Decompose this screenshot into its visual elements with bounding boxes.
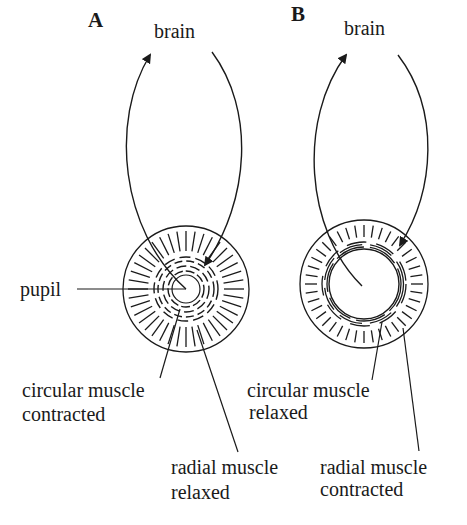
radial-muscle-label-a-line1: radial muscle: [171, 456, 278, 478]
panel-letter-a: A: [88, 8, 103, 33]
circular-muscle-label-b-line1: circular muscle: [247, 379, 370, 401]
radial-muscle-label-b-line1: radial muscle: [320, 456, 427, 478]
circular-muscle-b: [322, 242, 406, 326]
radial-muscle-b: [305, 225, 423, 343]
radial-leader-b: [403, 328, 419, 451]
nerve-from-brain-a: [205, 52, 242, 265]
circular-muscle-label-b-line2: relaxed: [249, 401, 308, 423]
radial-muscle-label-b-line2: contracted: [320, 478, 403, 500]
brain-label-a: brain: [154, 20, 195, 42]
nerve-from-brain-b: [398, 55, 428, 245]
brain-label-b: brain: [344, 17, 385, 39]
pupil-label: pupil: [20, 278, 61, 300]
panel-letter-b: B: [291, 2, 305, 27]
pupil-b: [329, 249, 399, 319]
iris-outline-b: [300, 220, 428, 348]
radial-leader-a: [197, 330, 238, 452]
iris-diagram: [0, 0, 467, 525]
circular-muscle-label-a-line1: circular muscle: [22, 379, 145, 401]
circular-leader-b: [372, 322, 382, 380]
circular-muscle-label-a-line2: contracted: [22, 403, 105, 425]
radial-muscle-label-a-line2: relaxed: [171, 481, 230, 503]
nerve-to-brain-a: [126, 55, 186, 289]
